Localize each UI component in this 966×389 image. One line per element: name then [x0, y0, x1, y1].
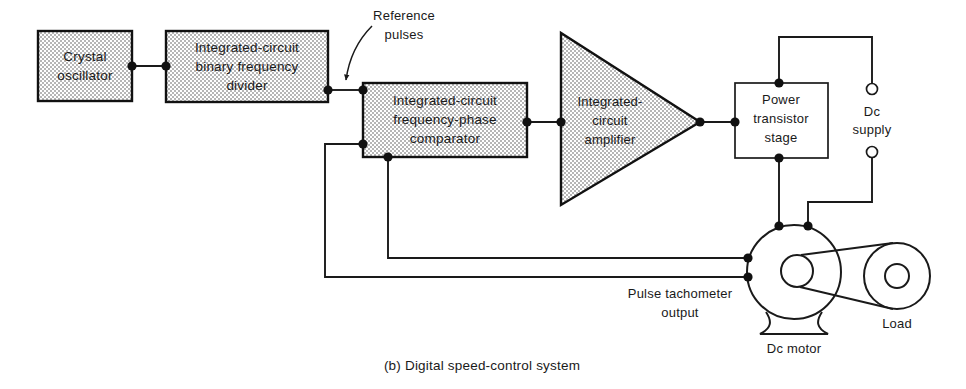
block-crystal-oscillator: Crystal oscillator: [38, 31, 132, 101]
wire-dc-supply-negative-to-motor: [808, 158, 872, 226]
power-transistor-stage-label-line2: transistor: [753, 111, 809, 126]
annotation-reference-pulses: Reference pulses: [346, 8, 435, 80]
node-comparator-out: [522, 117, 531, 126]
binary-frequency-divider-label-line1: Integrated-circuit: [195, 40, 299, 55]
frequency-phase-comparator-label-line2: frequency-phase: [393, 112, 497, 127]
block-frequency-phase-comparator: Integrated-circuit frequency-phase compa…: [363, 83, 527, 157]
reference-pulses-label-line1: Reference: [373, 8, 435, 23]
node-motor-top-left: [774, 221, 783, 230]
drive-belt-lower: [800, 287, 893, 309]
node-motor-top-right: [803, 221, 812, 230]
load-label: Load: [882, 316, 912, 331]
crystal-oscillator-label-line1: Crystal: [63, 49, 106, 64]
figure-caption: (b) Digital speed-control system: [384, 358, 580, 373]
load-pulley-outer: [864, 243, 930, 309]
block-power-transistor-stage: Power transistor stage: [735, 83, 828, 158]
node-amplifier-in: [556, 117, 565, 126]
pulse-tachometer-label-line1: Pulse tachometer: [628, 286, 733, 301]
dc-motor-base: [760, 312, 828, 334]
node-motor-tach-lower: [743, 272, 752, 281]
dc-supply-label-line1: Dc: [864, 104, 881, 119]
dc-motor-label: Dc motor: [767, 341, 822, 356]
frequency-phase-comparator-label-line1: Integrated-circuit: [393, 93, 497, 108]
frequency-phase-comparator-label-line3: comparator: [410, 131, 481, 146]
power-transistor-stage-label-line3: stage: [765, 130, 798, 145]
ic-amplifier-triangle: [561, 33, 700, 205]
dc-supply-terminal-positive: [867, 84, 878, 95]
dc-motor-shaft-pulley: [781, 255, 813, 287]
ic-amplifier-label-line3: amplifier: [585, 132, 636, 147]
annotation-pulse-tachometer-output: Pulse tachometer output: [628, 286, 733, 320]
node-divider-out: [323, 85, 332, 94]
load-pulley-inner: [885, 264, 909, 288]
block-binary-frequency-divider: Integrated-circuit binary frequency divi…: [166, 31, 328, 102]
component-load: Load: [864, 243, 930, 331]
dc-supply-terminal-negative: [867, 147, 878, 158]
node-oscillator-out: [127, 61, 136, 70]
binary-frequency-divider-label-line2: binary frequency: [195, 59, 298, 74]
node-comparator-bottom: [383, 152, 392, 161]
node-motor-tach-upper: [743, 253, 752, 262]
reference-pulses-label-line2: pulses: [385, 27, 424, 42]
ic-amplifier-label-line1: Integrated-: [577, 94, 642, 109]
node-comparator-in-feedback: [358, 139, 367, 148]
node-amplifier-out: [695, 117, 704, 126]
node-power-stage-bottom: [774, 153, 783, 162]
dc-motor-body: [747, 225, 841, 319]
figure-container: Crystal oscillator Integrated-circuit bi…: [0, 0, 966, 389]
pulse-tachometer-label-line2: output: [661, 305, 699, 320]
node-comparator-in-reference: [358, 85, 367, 94]
node-divider-in: [161, 61, 170, 70]
reference-pulses-arrow-icon: [346, 26, 372, 80]
crystal-oscillator-box: [38, 31, 132, 101]
ic-amplifier-label-line2: circuit: [592, 113, 628, 128]
block-ic-amplifier: Integrated- circuit amplifier: [561, 33, 700, 205]
node-power-stage-in: [730, 117, 739, 126]
wire-power-stage-to-dc-supply-positive: [779, 37, 872, 83]
component-dc-motor: Dc motor: [747, 225, 893, 356]
crystal-oscillator-label-line2: oscillator: [57, 68, 113, 83]
block-diagram: Crystal oscillator Integrated-circuit bi…: [0, 0, 966, 389]
node-power-stage-top: [774, 78, 783, 87]
power-transistor-stage-label-line1: Power: [762, 92, 800, 107]
binary-frequency-divider-label-line3: divider: [226, 78, 267, 93]
component-dc-supply: Dc supply: [853, 84, 892, 158]
dc-supply-label-line2: supply: [853, 122, 892, 137]
